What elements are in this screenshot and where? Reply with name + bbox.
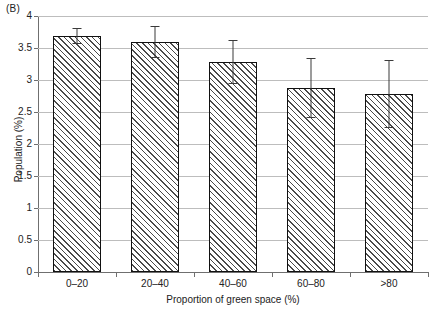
x-tick-mark xyxy=(38,272,39,277)
error-bar-stem xyxy=(155,26,156,58)
x-tick-label: 20–40 xyxy=(116,278,194,289)
y-tick-label: 4 xyxy=(26,11,32,21)
bar-group xyxy=(116,16,194,272)
bar xyxy=(53,36,101,272)
bar-group xyxy=(272,16,350,272)
plot-area: 00.511.522.533.54 xyxy=(38,16,428,272)
bar xyxy=(209,62,257,272)
error-bar xyxy=(73,28,82,43)
error-bar xyxy=(229,40,238,84)
bar-group xyxy=(350,16,428,272)
error-bar-stem xyxy=(77,28,78,43)
error-bar-cap-top xyxy=(385,60,394,61)
error-bar-stem xyxy=(311,58,312,118)
y-tick-label: 2.5 xyxy=(18,107,32,117)
error-bar-cap-top xyxy=(307,58,316,59)
x-tick-mark xyxy=(194,272,195,277)
error-bar-cap-top xyxy=(73,28,82,29)
x-tick-mark xyxy=(272,272,273,277)
x-axis-title: Proportion of green space (%) xyxy=(38,294,428,305)
y-tick-label: 0.5 xyxy=(18,235,32,245)
x-tick-mark xyxy=(116,272,117,277)
x-tick-label: 0–20 xyxy=(38,278,116,289)
y-tick-label: 2 xyxy=(26,139,32,149)
error-bar-stem xyxy=(389,60,390,128)
y-axis-title: Population (%) xyxy=(13,85,24,215)
x-tick-mark xyxy=(350,272,351,277)
x-tick-label: 60–80 xyxy=(272,278,350,289)
y-tick-label: 3.5 xyxy=(18,43,32,53)
y-tick-label: 1 xyxy=(26,203,32,213)
x-tick-mark xyxy=(428,272,429,277)
y-tick-label: 1.5 xyxy=(18,171,32,181)
error-bar-cap-bottom xyxy=(229,83,238,84)
bar-group xyxy=(194,16,272,272)
error-bar-cap-bottom xyxy=(151,57,160,58)
error-bar xyxy=(385,60,394,128)
panel-label: (B) xyxy=(6,3,20,14)
bar-group xyxy=(38,16,116,272)
error-bar-cap-top xyxy=(229,40,238,41)
x-tick-label: 40–60 xyxy=(194,278,272,289)
bar xyxy=(131,42,179,272)
error-bar-cap-bottom xyxy=(385,127,394,128)
figure-panel-b: (B) Population (%) 00.511.522.533.54 0–2… xyxy=(0,0,430,309)
error-bar-cap-bottom xyxy=(73,43,82,44)
error-bar xyxy=(151,26,160,58)
error-bar xyxy=(307,58,316,118)
error-bar-stem xyxy=(233,40,234,84)
error-bar-cap-bottom xyxy=(307,117,316,118)
error-bar-cap-top xyxy=(151,26,160,27)
y-tick-label: 3 xyxy=(26,75,32,85)
x-tick-label: >80 xyxy=(350,278,428,289)
y-tick-label: 0 xyxy=(26,267,32,277)
x-axis-line xyxy=(38,272,428,273)
